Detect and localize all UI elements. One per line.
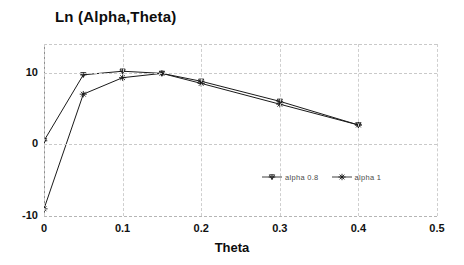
- chart-title: Ln (Alpha,Theta): [55, 8, 177, 25]
- y-tick-label: -10: [4, 209, 38, 221]
- gridline-x: [437, 44, 438, 216]
- y-axis-ticks: 100-10: [0, 44, 38, 216]
- x-axis-line: [44, 216, 437, 217]
- x-axis-label: Theta: [0, 240, 464, 255]
- x-tick-label: 0.1: [103, 222, 143, 234]
- gridline-x: [358, 44, 359, 216]
- plot-top-border: [44, 44, 437, 45]
- legend-item-1: alpha 0.8: [262, 172, 319, 182]
- chart-figure: Ln (Alpha,Theta) 100-10 00.10.20.30.40.5…: [0, 0, 464, 265]
- gridline-x: [123, 44, 124, 216]
- plot-area: [44, 44, 437, 216]
- gridline-x: [280, 44, 281, 216]
- y-tick-label: 10: [4, 66, 38, 78]
- gridline-x: [44, 44, 45, 216]
- series-plot: [44, 44, 437, 216]
- legend-marker-star-icon: [332, 172, 352, 182]
- series-2: [44, 70, 362, 212]
- legend-item-2: alpha 1: [332, 172, 382, 182]
- x-tick-label: 0.5: [417, 222, 457, 234]
- legend-marker-cross-icon: [262, 172, 282, 182]
- x-tick-label: 0.3: [260, 222, 300, 234]
- gridline-y: [44, 73, 437, 74]
- gridline-y: [44, 144, 437, 145]
- x-tick-label: 0.2: [181, 222, 221, 234]
- legend-label: alpha 1: [355, 172, 382, 181]
- y-tick-label: 0: [4, 137, 38, 149]
- gridline-x: [201, 44, 202, 216]
- chart-legend: alpha 0.8alpha 1: [262, 172, 381, 182]
- series-1: [44, 69, 362, 144]
- x-tick-label: 0: [24, 222, 64, 234]
- legend-label: alpha 0.8: [285, 172, 319, 181]
- x-tick-label: 0.4: [338, 222, 378, 234]
